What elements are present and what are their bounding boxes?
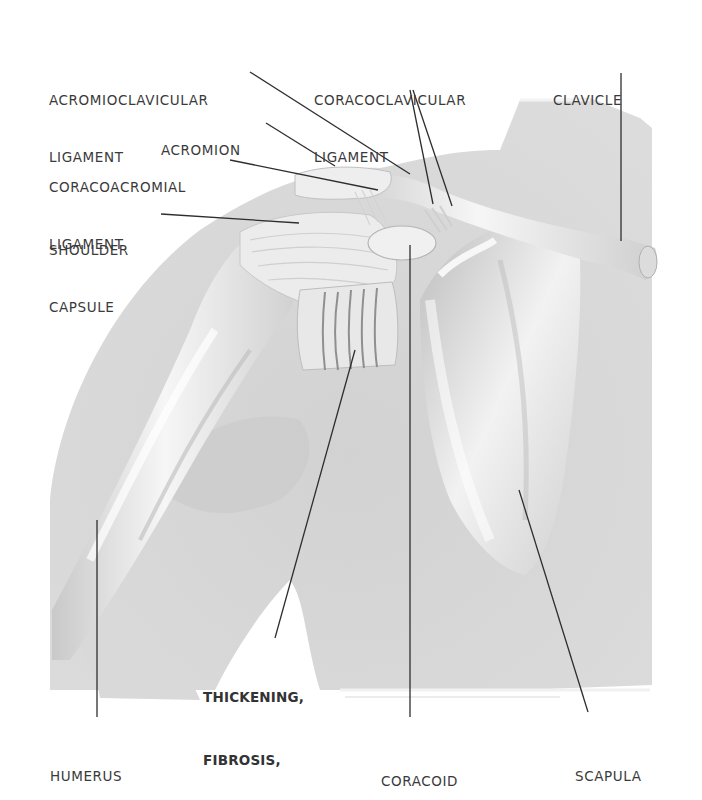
- label-line: CORACOACROMIAL: [49, 178, 186, 197]
- label-clavicle: CLAVICLE: [553, 53, 622, 148]
- label-thickening-fibrosis: THICKENING, FIBROSIS, AND SHRINKING OF C…: [203, 645, 304, 800]
- label-line: LIGAMENT: [314, 148, 466, 167]
- label-coracoclavicular-ligament: CORACOCLAVICULAR LIGAMENT: [314, 53, 466, 205]
- label-line: SHOULDER: [49, 241, 129, 260]
- label-coracoid-process: CORACOID PROCESS: [381, 729, 458, 800]
- label-line: HUMERUS: [50, 767, 122, 786]
- thickened-capsule: [297, 282, 398, 370]
- label-shoulder-capsule: SHOULDER CAPSULE: [49, 203, 129, 355]
- label-humerus: HUMERUS: [50, 729, 122, 800]
- label-line: CORACOID: [381, 771, 458, 792]
- shoulder-anatomy-diagram: ACROMIOCLAVICULAR LIGAMENT CORACOCLAVICU…: [0, 0, 702, 800]
- label-line: FIBROSIS,: [203, 750, 304, 771]
- label-line: THICKENING,: [203, 687, 304, 708]
- label-line: CLAVICLE: [553, 91, 622, 110]
- label-line: CORACOCLAVICULAR: [314, 91, 466, 110]
- label-line: CAPSULE: [49, 298, 129, 317]
- label-line: SCAPULA: [575, 767, 642, 786]
- label-scapula: SCAPULA: [575, 729, 642, 800]
